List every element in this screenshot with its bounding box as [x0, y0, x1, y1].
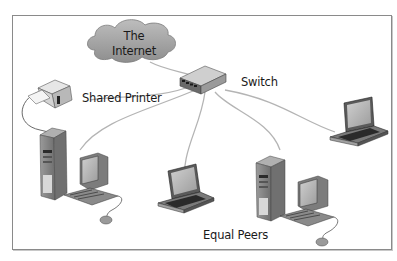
shared-printer-label: Shared Printer — [82, 91, 162, 105]
network-diagram — [0, 0, 397, 261]
switch-icon — [180, 66, 226, 94]
printer-icon — [28, 80, 72, 108]
laptop-icon — [158, 164, 214, 213]
equal-peers-label: Equal Peers — [203, 228, 268, 242]
desktop-computer-icon — [40, 128, 122, 224]
internet-label-line1: The — [109, 29, 159, 44]
laptop-icon — [330, 97, 388, 146]
cable-switch-desktop-right — [215, 92, 280, 150]
internet-label: The Internet — [109, 29, 159, 59]
switch-label: Switch — [241, 75, 278, 89]
internet-label-line2: Internet — [109, 44, 159, 59]
desktop-computer-icon — [256, 156, 338, 246]
